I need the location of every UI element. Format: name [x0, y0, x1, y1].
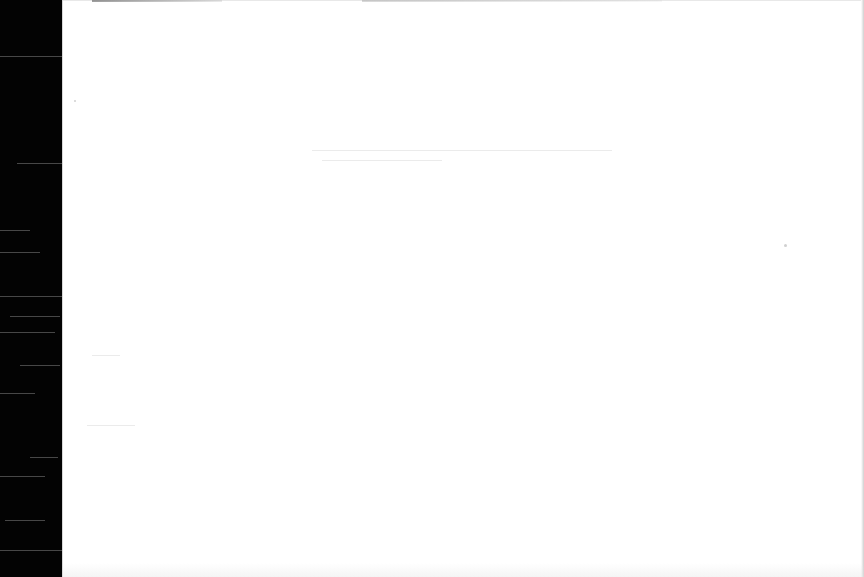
scanned-document: [0, 0, 864, 577]
scan-streak: [20, 365, 60, 366]
scan-streak: [0, 296, 62, 297]
faint-show-through: [92, 355, 120, 356]
faint-show-through: [87, 425, 135, 426]
page-bottom-shade: [62, 563, 864, 577]
scan-streak: [30, 457, 58, 458]
scan-streak: [0, 550, 62, 551]
scan-streak: [0, 230, 30, 231]
scan-streak: [17, 163, 62, 164]
scan-streak: [5, 520, 45, 521]
scan-streak: [0, 56, 62, 57]
scan-streak: [0, 252, 40, 253]
scanner-black-margin: [0, 0, 62, 577]
scan-streak: [10, 316, 60, 317]
scan-streak: [0, 393, 35, 394]
dust-speck: [784, 244, 787, 247]
page-edge-shadow: [362, 0, 662, 2]
dust-speck: [74, 100, 76, 102]
scan-streak: [0, 476, 45, 477]
faint-show-through: [312, 150, 612, 151]
scan-streak: [0, 332, 55, 333]
page-edge-shadow: [92, 0, 222, 2]
blank-page: [62, 0, 864, 577]
faint-show-through: [322, 160, 442, 161]
